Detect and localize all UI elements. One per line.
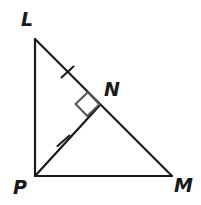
right-angle-marker-icon xyxy=(76,92,100,116)
vertex-label-L: L xyxy=(21,10,33,29)
vertex-label-P: P xyxy=(13,178,27,197)
vertex-label-N: N xyxy=(104,80,120,99)
geometry-figure: L N P M xyxy=(0,0,201,205)
segment-PN xyxy=(35,105,100,176)
geometry-canvas xyxy=(0,0,201,205)
segment-LM xyxy=(35,39,172,176)
vertex-label-M: M xyxy=(174,176,193,195)
